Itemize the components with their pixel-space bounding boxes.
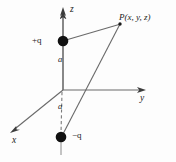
distance-label-lower-a: a — [58, 102, 62, 111]
distance-label-upper-a: a — [58, 55, 62, 64]
positive-charge-label: +q — [32, 36, 42, 45]
x-axis-line — [16, 90, 63, 128]
ray-from-negative-charge — [63, 25, 120, 134]
z-axis-label: z — [70, 5, 74, 15]
x-axis-label: x — [12, 136, 16, 146]
figure-canvas — [0, 0, 176, 162]
y-axis-label: y — [140, 94, 144, 104]
electric-dipole-figure: z y x a a +q −q P(x, y, z) — [0, 0, 176, 162]
negative-charge-dot — [56, 132, 67, 143]
field-point-label: P(x, y, z) — [119, 13, 151, 22]
field-point-dot — [118, 22, 121, 25]
x-axis-arrowhead — [10, 126, 20, 133]
positive-charge-dot — [58, 36, 69, 47]
negative-charge-label: −q — [72, 131, 82, 140]
ray-from-positive-charge — [66, 25, 119, 41]
negative-axis-dashed-segment — [61, 92, 62, 133]
